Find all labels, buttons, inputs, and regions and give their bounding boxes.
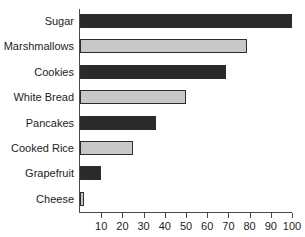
bar-row: Cookies xyxy=(0,60,305,85)
x-tick-mark xyxy=(101,213,102,218)
bar-category-label: Cookies xyxy=(0,60,74,85)
bar-chart: SugarMarshmallowsCookiesWhite BreadPanca… xyxy=(0,0,305,237)
bar-row: White Bread xyxy=(0,85,305,110)
bar xyxy=(80,90,186,104)
bar-category-label: Grapefruit xyxy=(0,161,74,186)
bar-category-label: Marshmallows xyxy=(0,34,74,59)
x-tick-mark xyxy=(165,213,166,218)
bar xyxy=(80,141,133,155)
bar-rows: SugarMarshmallowsCookiesWhite BreadPanca… xyxy=(0,9,305,212)
plot-area: SugarMarshmallowsCookiesWhite BreadPanca… xyxy=(0,0,305,237)
bar-row: Grapefruit xyxy=(0,161,305,186)
bar xyxy=(80,39,247,53)
bar xyxy=(80,116,156,130)
bar-category-label: Cooked Rice xyxy=(0,136,74,161)
bar-row: Sugar xyxy=(0,9,305,34)
bar-row: Marshmallows xyxy=(0,34,305,59)
x-tick-mark xyxy=(271,213,272,218)
bar-category-label: Cheese xyxy=(0,187,74,212)
x-axis-ticks: 102030405060708090100 xyxy=(0,213,305,237)
x-tick-mark xyxy=(250,213,251,218)
x-tick-mark xyxy=(207,213,208,218)
bar-category-label: Sugar xyxy=(0,9,74,34)
bar-row: Cooked Rice xyxy=(0,136,305,161)
x-tick-mark xyxy=(228,213,229,218)
x-tick-mark xyxy=(292,213,293,218)
x-tick-label: 100 xyxy=(277,220,305,232)
x-tick-mark xyxy=(186,213,187,218)
bar xyxy=(80,166,101,180)
bar xyxy=(80,192,84,206)
x-tick-mark xyxy=(122,213,123,218)
bar-category-label: Pancakes xyxy=(0,111,74,136)
bar-row: Pancakes xyxy=(0,111,305,136)
bar-row: Cheese xyxy=(0,187,305,212)
bar xyxy=(80,14,292,28)
bar-category-label: White Bread xyxy=(0,85,74,110)
bar xyxy=(80,65,226,79)
x-tick-mark xyxy=(144,213,145,218)
